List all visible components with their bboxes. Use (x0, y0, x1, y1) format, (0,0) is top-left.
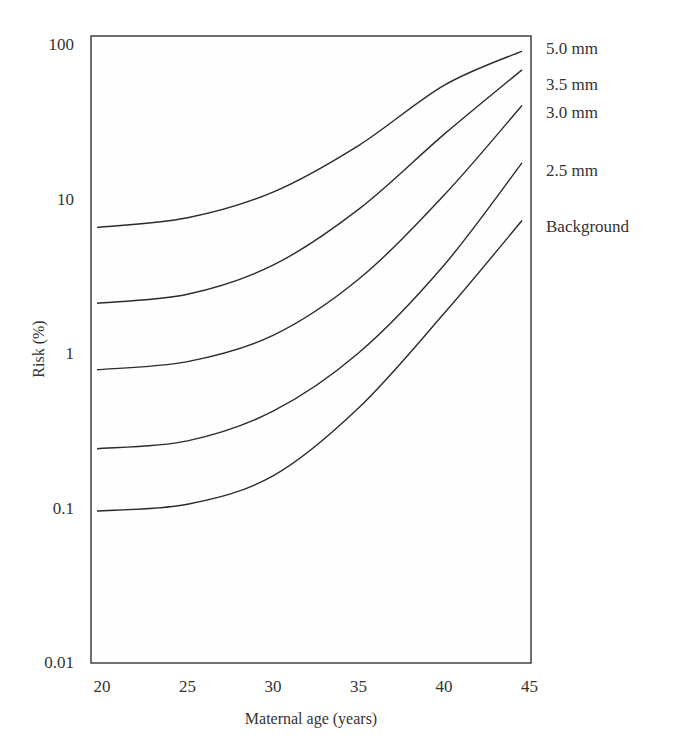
x-tick-label: 35 (350, 677, 367, 696)
y-axis-label: Risk (%) (30, 320, 48, 377)
y-axis-ticks: 0.010.1110100 (44, 35, 74, 672)
curve-label: 3.0 mm (546, 103, 598, 122)
curve-label: Background (546, 217, 630, 236)
x-tick-label: 40 (436, 677, 453, 696)
curve-labels: 5.0 mm3.5 mm3.0 mm2.5 mmBackground (546, 39, 630, 236)
x-tick-label: 25 (179, 677, 196, 696)
x-axis-ticks: 202530354045 (94, 677, 539, 696)
y-tick-label: 1 (66, 344, 75, 363)
y-tick-label: 0.01 (44, 653, 74, 672)
risk-chart: 0.010.1110100 202530354045 5.0 mm3.5 mm3… (0, 0, 682, 756)
x-axis-label: Maternal age (years) (245, 710, 377, 728)
x-tick-label: 45 (521, 677, 538, 696)
y-tick-label: 10 (57, 190, 74, 209)
x-tick-label: 30 (265, 677, 282, 696)
x-tick-label: 20 (94, 677, 111, 696)
y-tick-label: 0.1 (53, 499, 74, 518)
y-tick-label: 100 (49, 35, 75, 54)
plot-area (91, 36, 531, 663)
curve-label: 5.0 mm (546, 39, 598, 58)
curve-label: 2.5 mm (546, 161, 598, 180)
curve-label: 3.5 mm (546, 75, 598, 94)
